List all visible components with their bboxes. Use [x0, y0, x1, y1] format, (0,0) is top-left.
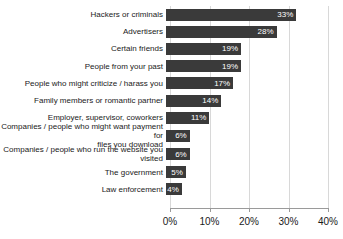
- bar[interactable]: 17%: [166, 77, 233, 89]
- category-label: People who might criticize / harass you: [0, 79, 166, 88]
- bar-value-label: 17%: [214, 79, 230, 88]
- bar-track: 6%: [166, 145, 333, 164]
- category-label: Companies / people who run the website y…: [0, 145, 166, 163]
- bar-row: People from your past19%: [0, 58, 333, 75]
- bar-row: Companies / people who might want paymen…: [0, 126, 333, 145]
- bar-track: 17%: [166, 75, 333, 92]
- bar[interactable]: 19%: [166, 60, 241, 72]
- bar-track: 6%: [166, 126, 333, 145]
- x-axis-tick: [210, 208, 211, 212]
- bar-row: Law enforcement4%: [0, 181, 333, 198]
- bar[interactable]: 6%: [166, 148, 190, 160]
- bar-value-label: 19%: [222, 62, 238, 71]
- bar[interactable]: 6%: [166, 130, 190, 142]
- category-label: Advertisers: [0, 27, 166, 36]
- x-axis-tick: [249, 208, 250, 212]
- bar-row: People who might criticize / harass you1…: [0, 75, 333, 92]
- x-axis-tick-label: 0%: [150, 216, 190, 228]
- bar-row: Family members or romantic partner14%: [0, 92, 333, 109]
- bar-value-label: 6%: [175, 131, 187, 140]
- bar-track: 33%: [166, 6, 333, 23]
- bar-value-label: 14%: [202, 96, 218, 105]
- category-label: Law enforcement: [0, 185, 166, 194]
- bar[interactable]: 11%: [166, 112, 209, 124]
- bar[interactable]: 33%: [166, 9, 296, 21]
- bar-row: Companies / people who run the website y…: [0, 145, 333, 164]
- bar-track: 19%: [166, 40, 333, 57]
- category-label: The government: [0, 168, 166, 177]
- bar-row: Hackers or criminals33%: [0, 6, 333, 23]
- x-axis-tick-label: 40%: [308, 216, 343, 228]
- bar-row: Advertisers28%: [0, 23, 333, 40]
- bar-row: Certain friends19%: [0, 40, 333, 57]
- x-axis-tick: [170, 208, 171, 212]
- bar[interactable]: 19%: [166, 43, 241, 55]
- bar-value-label: 28%: [258, 27, 274, 36]
- bar-row: The government5%: [0, 164, 333, 181]
- bar-track: 5%: [166, 164, 333, 181]
- category-label: Certain friends: [0, 44, 166, 53]
- x-axis-tick: [289, 208, 290, 212]
- x-axis-tick-label: 30%: [269, 216, 309, 228]
- bar-track: 28%: [166, 23, 333, 40]
- bar-value-label: 11%: [191, 113, 206, 122]
- bar-value-label: 5%: [171, 168, 183, 177]
- bar-value-label: 6%: [175, 150, 187, 159]
- x-axis-tick-label: 10%: [190, 216, 230, 228]
- bar-value-label: 33%: [277, 10, 293, 19]
- bar-track: 11%: [166, 109, 333, 126]
- category-label: Family members or romantic partner: [0, 96, 166, 105]
- x-axis-tick-label: 20%: [229, 216, 269, 228]
- bar-track: 19%: [166, 58, 333, 75]
- bar[interactable]: 14%: [166, 95, 221, 107]
- bar-track: 4%: [166, 181, 333, 198]
- bar-track: 14%: [166, 92, 333, 109]
- bar-value-label: 4%: [167, 185, 179, 194]
- bar[interactable]: 4%: [166, 183, 182, 195]
- category-label: Employer, supervisor, coworkers: [0, 113, 166, 122]
- category-label: Hackers or criminals: [0, 10, 166, 19]
- x-axis-tick: [328, 208, 329, 212]
- bar[interactable]: 28%: [166, 26, 277, 38]
- bar-value-label: 19%: [222, 44, 238, 53]
- category-label: People from your past: [0, 62, 166, 71]
- bar[interactable]: 5%: [166, 166, 186, 178]
